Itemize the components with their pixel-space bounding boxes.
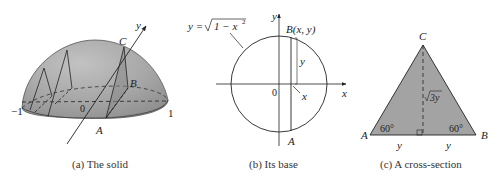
- figure-canvas: −1 1 0 y C B A (a) The solid y = 1 − x 2…: [0, 0, 500, 185]
- label-B-c: B: [481, 129, 488, 141]
- label-y-axis: y: [135, 19, 141, 31]
- label-one: 1: [168, 107, 174, 119]
- caption-c: (c) A cross-section: [380, 158, 462, 171]
- label-neg-one: −1: [11, 105, 23, 117]
- label-segment-y: y: [299, 55, 305, 67]
- label-angle-left: 60°: [380, 123, 394, 134]
- panel-c-cross-section: C A B 60° 60° 3y y y (c) A cross-section: [360, 30, 488, 171]
- label-A-c: A: [360, 129, 368, 141]
- formula-pointer: [230, 33, 243, 48]
- svg-text:2: 2: [242, 18, 246, 26]
- dome-surface: [22, 40, 168, 118]
- label-point-A: A: [287, 135, 295, 147]
- label-origin-b: 0: [272, 87, 277, 98]
- label-A: A: [95, 124, 103, 136]
- y-bracket: [295, 38, 297, 84]
- panel-a-solid: −1 1 0 y C B A (a) The solid: [11, 19, 174, 171]
- caption-b: (b) Its base: [249, 158, 298, 171]
- svg-text:1 − x: 1 − x: [214, 20, 237, 32]
- label-y-axis-b: y: [271, 10, 277, 22]
- svg-text:3y: 3y: [429, 92, 440, 103]
- label-angle-right: 60°: [449, 123, 463, 134]
- label-origin: 0: [80, 103, 85, 114]
- label-B: B: [130, 77, 137, 89]
- label-segment-x: x: [301, 90, 307, 102]
- label-C-c: C: [419, 30, 427, 42]
- svg-text:y =: y =: [187, 20, 203, 32]
- panel-b-base: y = 1 − x 2 y x 0 B(x, y) A y x (b) Its …: [187, 10, 347, 171]
- x-pointer: [293, 86, 300, 93]
- circle-formula: y = 1 − x 2: [187, 18, 246, 32]
- label-x-axis-b: x: [341, 87, 347, 99]
- label-C: C: [119, 35, 127, 47]
- caption-a: (a) The solid: [72, 158, 129, 171]
- label-point-B: B(x, y): [286, 23, 316, 36]
- label-base-right: y: [445, 139, 451, 151]
- label-base-left: y: [396, 139, 402, 151]
